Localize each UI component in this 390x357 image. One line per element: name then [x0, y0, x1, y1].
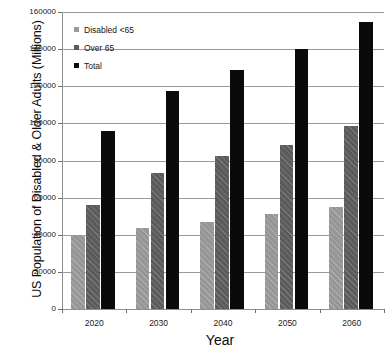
y-axis-tick-mark [58, 198, 62, 199]
y-axis-tick-mark [58, 235, 62, 236]
y-axis-tick-mark [58, 161, 62, 162]
bar [359, 22, 373, 309]
legend-item-over65[interactable]: Over 65 [74, 40, 194, 55]
legend-label: Disabled <65 [84, 25, 134, 35]
x-axis-tick-mark [384, 309, 385, 313]
x-axis-tick-label: 2020 [64, 318, 124, 328]
y-axis-tick-mark [58, 49, 62, 50]
y-axis-tick-label: 160000 [8, 7, 56, 16]
bar [329, 207, 343, 309]
legend-swatch-icon [74, 27, 79, 32]
y-axis-tick-label: 140000 [8, 44, 56, 53]
y-axis-tick-label: 100000 [8, 118, 56, 127]
bar [166, 91, 180, 309]
x-axis-tick-mark [320, 309, 321, 313]
bar [86, 205, 100, 309]
bar [101, 131, 115, 309]
y-axis-tick-mark [58, 272, 62, 273]
y-axis-tick-mark [58, 12, 62, 13]
y-axis-tick-mark [58, 123, 62, 124]
x-axis-tick-mark [62, 309, 63, 313]
bar [344, 126, 358, 309]
y-axis-tick-mark [58, 86, 62, 87]
gridline [62, 86, 384, 87]
x-axis-tick-mark [255, 309, 256, 313]
y-axis-tick-label: 120000 [8, 81, 56, 90]
legend-swatch-icon [74, 45, 79, 50]
x-axis-tick-label: 2050 [257, 318, 317, 328]
legend: Disabled <65 Over 65 Total [74, 22, 194, 76]
x-axis-tick-mark [191, 309, 192, 313]
legend-item-disabled[interactable]: Disabled <65 [74, 22, 194, 37]
x-axis-tick-label: 2040 [193, 318, 253, 328]
x-axis-line [62, 309, 384, 310]
y-axis-tick-label: 20000 [8, 267, 56, 276]
x-axis-tick-mark [126, 309, 127, 313]
y-axis-tick-label: 80000 [8, 156, 56, 165]
gridline [62, 123, 384, 124]
bar [151, 173, 165, 309]
legend-label: Total [84, 61, 102, 71]
bar [295, 49, 309, 309]
x-axis-tick-label: 2030 [129, 318, 189, 328]
bar [215, 156, 229, 309]
legend-label: Over 65 [84, 43, 114, 53]
x-axis-title: Year [60, 332, 380, 348]
bar [280, 145, 294, 309]
bar [136, 228, 150, 309]
bar [200, 222, 214, 309]
y-axis-tick-label: 40000 [8, 230, 56, 239]
y-axis-tick-label: 60000 [8, 193, 56, 202]
bar [265, 214, 279, 309]
bar-chart: US Population of Disabled & Older Adults… [0, 0, 390, 357]
legend-swatch-icon [74, 63, 79, 68]
legend-item-total[interactable]: Total [74, 58, 194, 73]
bar [71, 235, 85, 309]
gridline [62, 12, 384, 13]
y-axis-tick-label: 0 [8, 304, 56, 313]
bar [230, 70, 244, 309]
x-axis-tick-label: 2060 [322, 318, 382, 328]
